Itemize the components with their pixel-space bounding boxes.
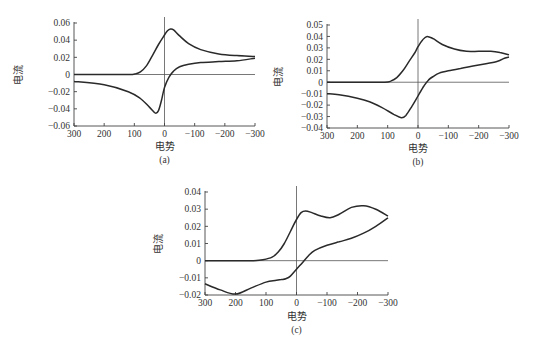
x-tick-label: 300 [320, 131, 335, 141]
y-tick-label: 0 [65, 70, 70, 80]
x-tick-label: 200 [97, 129, 112, 139]
x-tick-label: −100 [185, 129, 205, 139]
y-tick-label: 0.02 [53, 53, 70, 63]
x-tick-label: −300 [378, 298, 398, 308]
y-tick-label: −0.02 [48, 87, 70, 97]
y-tick-label: 0.02 [184, 222, 201, 232]
y-axis-title: 电流 [272, 67, 284, 87]
y-tick-label: 0.04 [184, 187, 201, 197]
x-tick-label: −200 [215, 129, 235, 139]
y-tick-label: −0.01 [179, 273, 201, 283]
y-tick-label: 0.01 [306, 66, 323, 76]
x-tick-label: 0 [162, 129, 167, 139]
y-tick-label: −0.01 [301, 89, 323, 99]
subfigure-caption: (a) [159, 155, 170, 166]
y-tick-label: −0.04 [48, 104, 70, 114]
y-tick-label: 0.06 [53, 18, 70, 28]
chart-a: 0.060.040.020−0.02−0.04−0.063002001000−1… [12, 17, 265, 166]
y-tick-label: 0.05 [306, 20, 323, 30]
x-tick-label: −100 [317, 298, 337, 308]
subfigure-caption: (c) [291, 325, 302, 336]
x-tick-label: −300 [499, 131, 519, 141]
y-tick-label: −0.02 [301, 100, 323, 110]
x-tick-label: 100 [381, 131, 396, 141]
y-tick-label: 0 [318, 78, 323, 88]
x-axis-title: 电势 [287, 310, 307, 322]
y-tick-label: 0.01 [184, 239, 201, 249]
x-tick-label: 300 [67, 129, 82, 139]
y-axis-title: 电流 [152, 234, 164, 254]
x-tick-label: 100 [127, 129, 142, 139]
x-tick-label: −100 [439, 131, 459, 141]
chart-b: 0.050.040.030.020.010−0.01−0.02−0.03−0.0… [272, 19, 519, 168]
figure-canvas: 0.060.040.020−0.02−0.04−0.063002001000−1… [0, 0, 539, 350]
y-tick-label: 0.04 [306, 32, 323, 42]
x-tick-label: 0 [294, 298, 299, 308]
x-tick-label: 200 [228, 298, 243, 308]
x-tick-label: 0 [416, 131, 421, 141]
x-tick-label: 300 [198, 298, 213, 308]
x-tick-label: −300 [245, 129, 265, 139]
subfigure-caption: (b) [412, 157, 423, 168]
y-axis-title: 电流 [12, 65, 24, 85]
x-tick-label: 200 [350, 131, 365, 141]
chart-c: 0.040.030.020.010−0.01−0.023002001000−10… [152, 186, 398, 336]
x-tick-label: −200 [348, 298, 368, 308]
y-tick-label: 0.03 [306, 43, 323, 53]
x-axis-title: 电势 [155, 140, 175, 152]
y-tick-label: −0.03 [301, 112, 323, 122]
y-tick-label: 0.03 [184, 204, 201, 214]
y-tick-label: 0.02 [306, 55, 323, 65]
y-tick-label: 0.04 [53, 35, 70, 45]
x-tick-label: 100 [259, 298, 274, 308]
x-axis-title: 电势 [408, 142, 428, 154]
y-tick-label: 0 [196, 256, 201, 266]
x-tick-label: −200 [469, 131, 489, 141]
